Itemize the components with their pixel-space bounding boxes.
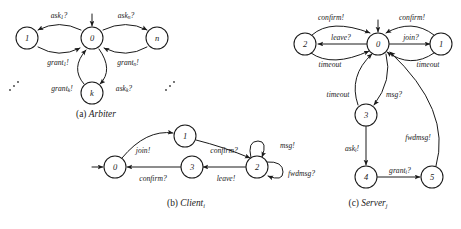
edge-arbiter-k-to-0 — [77, 50, 86, 84]
state-label-server-3: 3 — [363, 110, 368, 120]
edge-arbiter-0-to-k — [99, 49, 107, 84]
diagram-client: 0 1 3 2 join! confirm? msg! fwdmsg? leav… — [92, 125, 315, 209]
edge-label-server-timeout-left: timeout — [319, 60, 343, 69]
edge-arbiter-0-to-1 — [38, 25, 81, 31]
state-machine-figure: 1 0 n k ask1? askn? grant1! grantn! gran… — [0, 0, 461, 229]
edge-label-server-confirm-right: confirm! — [399, 13, 426, 22]
state-label-client-3: 3 — [189, 162, 194, 172]
diagram-server: 2 0 1 3 4 5 confirm! confirm! leave? joi… — [294, 13, 452, 210]
edge-label-server-timeout-right: timeout — [417, 60, 441, 69]
edge-label-server-fwdmsg: fwdmsg! — [405, 133, 431, 142]
ellipsis-right — [165, 81, 175, 91]
edge-server-3-to-0-timeout — [355, 54, 372, 105]
state-label-server-1: 1 — [439, 39, 443, 49]
edge-label-arbiter-grantn: grantn! — [117, 58, 139, 67]
caption-arbiter: (a) Arbiter — [76, 109, 116, 120]
edge-label-arbiter-askk: askk? — [116, 84, 133, 93]
edge-label-server-ask: aski! — [345, 144, 360, 153]
ellipsis-left — [9, 81, 19, 91]
edge-label-server-confirm-left: confirm! — [318, 13, 345, 22]
edge-label-server-msg: msg? — [386, 90, 402, 99]
edge-label-server-grant: granti? — [389, 166, 411, 175]
edge-label-arbiter-ask1: ask1? — [51, 11, 68, 20]
edge-label-arbiter-grant1: grant1! — [47, 58, 69, 67]
state-label-arbiter-k: k — [90, 88, 94, 98]
edge-label-server-leave: leave? — [331, 33, 351, 42]
state-label-arbiter-n: n — [155, 33, 159, 43]
edge-label-client-leave: leave! — [217, 174, 236, 183]
edge-label-arbiter-askn: askn? — [118, 11, 135, 20]
state-label-arbiter-1: 1 — [25, 33, 29, 43]
edge-arbiter-0-to-n — [103, 25, 147, 31]
diagram-arbiter: 1 0 n k ask1? askn? grant1! grantn! gran… — [9, 11, 175, 121]
edge-label-client-confirm-bottom: confirm? — [139, 174, 167, 183]
edge-label-client-confirm-top: confirm? — [210, 146, 238, 155]
edge-server-5-to-0-fwdmsg — [390, 52, 439, 166]
edge-client-2-self-fwdmsg — [267, 162, 283, 178]
edge-label-client-join: join! — [135, 146, 151, 155]
figure-container: 1 0 n k ask1? askn? grant1! grantn! gran… — [0, 0, 461, 229]
state-label-client-1: 1 — [183, 131, 187, 141]
edge-client-2-self-msg — [250, 141, 264, 158]
edge-label-server-join: join? — [402, 33, 419, 42]
edge-arbiter-1-to-0 — [38, 47, 80, 53]
caption-server: (c) Serverj — [349, 198, 388, 209]
edge-label-client-fwdmsg: fwdmsg? — [288, 169, 315, 178]
state-label-server-5: 5 — [430, 172, 434, 182]
edge-label-client-msg: msg! — [280, 141, 295, 150]
caption-client: (b) Clienti — [167, 198, 205, 209]
edge-arbiter-n-to-0 — [104, 47, 147, 53]
edge-label-server-timeout-mid: timeout — [327, 90, 351, 99]
edge-label-arbiter-grantk: grantk! — [51, 84, 73, 93]
